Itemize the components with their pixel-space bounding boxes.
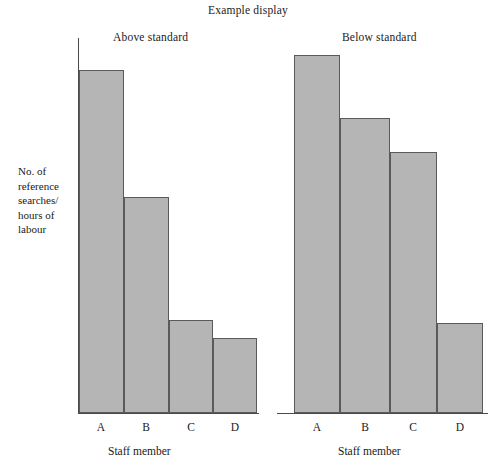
x-tick-above-standard-a: A xyxy=(91,421,111,433)
x-tick-below-standard-c: C xyxy=(403,421,423,433)
y-axis-label-line-5: labour xyxy=(18,222,78,237)
x-tick-above-standard-b: B xyxy=(136,421,156,433)
bar-above-standard-d xyxy=(213,338,257,413)
x-axis-caption-above-standard: Staff member xyxy=(108,445,171,457)
right-panel-x-axis xyxy=(277,413,488,414)
bar-below-standard-c xyxy=(390,152,437,413)
chart-title: Example display xyxy=(0,4,496,16)
x-tick-below-standard-a: A xyxy=(307,421,327,433)
left-panel-x-axis xyxy=(78,413,259,414)
bar-above-standard-b xyxy=(124,197,169,413)
y-axis-label-line-3: searches/ xyxy=(18,193,78,208)
x-tick-below-standard-d: D xyxy=(450,421,470,433)
bar-above-standard-c xyxy=(169,320,213,413)
y-axis-label: No. of reference searches/ hours of labo… xyxy=(18,164,78,237)
y-axis-label-line-2: reference xyxy=(18,179,78,194)
bar-below-standard-b xyxy=(340,118,390,413)
x-tick-above-standard-c: C xyxy=(181,421,201,433)
bar-above-standard-a xyxy=(79,70,124,413)
panel-heading-below-standard: Below standard xyxy=(342,31,417,43)
y-axis-label-line-4: hours of xyxy=(18,208,78,223)
bar-below-standard-d xyxy=(437,323,483,413)
panel-heading-above-standard: Above standard xyxy=(113,31,188,43)
x-tick-below-standard-b: B xyxy=(355,421,375,433)
x-tick-above-standard-d: D xyxy=(225,421,245,433)
bar-below-standard-a xyxy=(294,55,340,413)
x-axis-caption-below-standard: Staff member xyxy=(338,445,401,457)
chart-figure: Example display Above standard Below sta… xyxy=(0,0,496,476)
y-axis-label-line-1: No. of xyxy=(18,164,78,179)
